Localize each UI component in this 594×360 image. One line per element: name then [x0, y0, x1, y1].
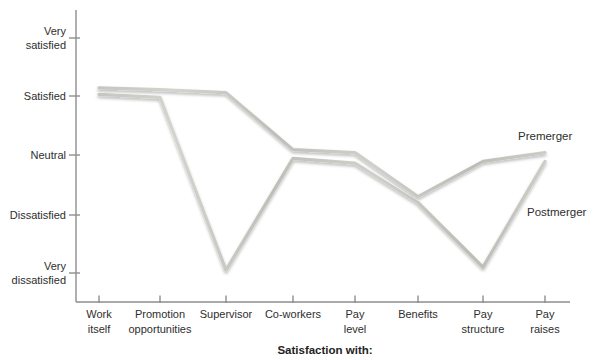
y-tick-label-dissatisfied: Dissatisfied	[2, 208, 66, 222]
data-lines	[99, 88, 545, 270]
y-tick-label-very-satisfied: Very satisfied	[2, 24, 66, 52]
premerger-label: Premerger	[518, 129, 572, 143]
axes	[69, 10, 570, 303]
premerger-line	[99, 88, 545, 197]
axis-ticks	[69, 38, 545, 303]
chart-caption: Satisfaction with:	[225, 344, 425, 356]
y-tick-label-satisfied: Satisfied	[2, 89, 66, 103]
postmerger-label: Postmerger	[527, 205, 586, 219]
postmerger-line	[99, 94, 545, 270]
y-tick-label-very-dissatisfied: Very dissatisfied	[2, 259, 66, 287]
x-tick-label-pay-raises: Pay raises	[495, 307, 594, 337]
y-tick-label-neutral: Neutral	[2, 148, 66, 162]
satisfaction-line-chart: Very satisfied Satisfied Neutral Dissati…	[0, 0, 594, 360]
plot-area	[0, 0, 594, 360]
